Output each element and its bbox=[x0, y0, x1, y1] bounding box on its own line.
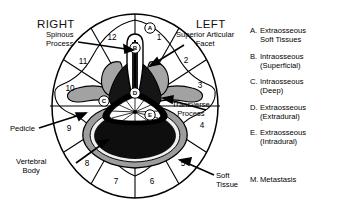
legend-text-e: Extraosseous (Intradural) bbox=[260, 128, 306, 146]
legend-e-line2: (Intradural) bbox=[260, 137, 306, 146]
legend-item-b: B. Intraosseous (Superficial) bbox=[250, 52, 338, 70]
annotation-spinous-process: Spinous Process bbox=[46, 31, 73, 48]
legend-text-b: Intraosseous (Superficial) bbox=[260, 52, 303, 70]
legend-a-line1: Extraosseous bbox=[260, 26, 306, 35]
zone-marker-D-label: D bbox=[133, 89, 138, 96]
legend-b-line2: (Superficial) bbox=[260, 61, 303, 70]
legend-key-m: M. bbox=[250, 175, 260, 184]
zone-marker-A-label: A bbox=[148, 24, 153, 31]
annotation-superior-articular-facet: Superior Articular Facet bbox=[176, 31, 234, 48]
annotation-transverse-line2: Process bbox=[172, 110, 210, 119]
zone-marker-C-label: C bbox=[102, 97, 107, 104]
legend-text-a: Extraosseous Soft Tissues bbox=[260, 26, 306, 44]
legend-item-e: E. Extraosseous (Intradural) bbox=[250, 128, 338, 146]
annotation-soft-tissue-line2: Tissue bbox=[216, 181, 238, 190]
annotation-pedicle: Pedicle bbox=[10, 125, 35, 134]
legend: A. Extraosseous Soft Tissues B. Intraoss… bbox=[250, 26, 338, 154]
annotation-spinous-process-line2: Process bbox=[46, 40, 73, 49]
legend-key-d: D. bbox=[250, 103, 260, 121]
legend-text-m: Metastasis bbox=[260, 175, 296, 184]
right-side-label: RIGHT bbox=[37, 18, 75, 30]
zone-marker-E-label: E bbox=[148, 111, 152, 118]
legend-item-metastasis: M. Metastasis bbox=[250, 175, 296, 184]
legend-e-line1: Extraosseous bbox=[260, 128, 306, 137]
legend-d-line1: Extraosseous bbox=[260, 103, 306, 112]
legend-item-a: A. Extraosseous Soft Tissues bbox=[250, 26, 338, 44]
legend-key-b: B. bbox=[250, 52, 260, 70]
figure-container: A B C D E 1 2 3 4 5 6 7 8 9 10 11 12 bbox=[0, 0, 339, 207]
clock-number-9: 9 bbox=[67, 124, 72, 133]
legend-item-d: D. Extraosseous (Extradural) bbox=[250, 103, 338, 121]
legend-text-d: Extraosseous (Extradural) bbox=[260, 103, 306, 121]
legend-key-a: A. bbox=[250, 26, 260, 44]
clock-number-12: 12 bbox=[107, 33, 117, 42]
legend-b-line1: Intraosseous bbox=[260, 52, 303, 61]
legend-c-line2: (Deep) bbox=[260, 86, 303, 95]
clock-number-2: 2 bbox=[184, 56, 189, 65]
legend-text-c: Intraosseous (Deep) bbox=[260, 77, 303, 95]
clock-number-8: 8 bbox=[85, 159, 90, 168]
legend-c-line1: Intraosseous bbox=[260, 77, 303, 86]
annotation-vertebral-body-line2: Body bbox=[16, 167, 46, 176]
annotation-vertebral-body: Vertebral Body bbox=[16, 158, 46, 175]
annotation-soft-tissue: Soft Tissue bbox=[216, 172, 238, 189]
annotation-transverse-process: Transverse Process bbox=[172, 101, 210, 118]
clock-number-3: 3 bbox=[198, 81, 203, 90]
legend-key-e: E. bbox=[250, 128, 260, 146]
clock-number-6: 6 bbox=[150, 177, 155, 186]
clock-number-4: 4 bbox=[200, 121, 205, 130]
legend-key-c: C. bbox=[250, 77, 260, 95]
clock-number-10: 10 bbox=[65, 84, 75, 93]
annotation-superior-articular-line2: Facet bbox=[176, 40, 234, 49]
left-side-label: LEFT bbox=[196, 18, 226, 30]
clock-number-1: 1 bbox=[157, 33, 162, 42]
legend-a-line2: Soft Tissues bbox=[260, 35, 306, 44]
legend-d-line2: (Extradural) bbox=[260, 112, 306, 121]
clock-number-7: 7 bbox=[114, 177, 119, 186]
legend-item-c: C. Intraosseous (Deep) bbox=[250, 77, 338, 95]
annotation-pedicle-line1: Pedicle bbox=[10, 125, 35, 134]
clock-number-11: 11 bbox=[79, 57, 88, 66]
